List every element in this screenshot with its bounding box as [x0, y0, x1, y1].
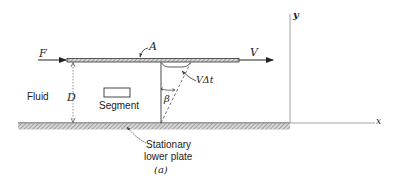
diagram-canvas [0, 0, 394, 187]
figure-caption: (a) [154, 165, 168, 175]
lower-plate-label-line1: Stationary [146, 140, 191, 150]
velocity-label: V [250, 47, 258, 58]
force-label: F [39, 48, 47, 59]
upper-plate [67, 59, 239, 63]
area-leader [140, 48, 148, 57]
gap-label: D [67, 92, 76, 103]
area-label: A [149, 41, 157, 52]
x-axis-label: x [376, 117, 381, 126]
fluid-label: Fluid [27, 92, 49, 102]
segment-label: Segment [99, 101, 139, 111]
angle-arc [161, 89, 175, 90]
segment-rectangle [104, 88, 130, 97]
angle-label: β [164, 94, 170, 104]
lower-plate [18, 123, 290, 130]
lower-plate-label-line2: lower plate [144, 152, 192, 162]
y-axis-label: y [293, 10, 299, 20]
displacement-brace [162, 63, 190, 67]
displacement-label: VΔt [196, 75, 214, 85]
coordinate-axes [290, 14, 375, 123]
